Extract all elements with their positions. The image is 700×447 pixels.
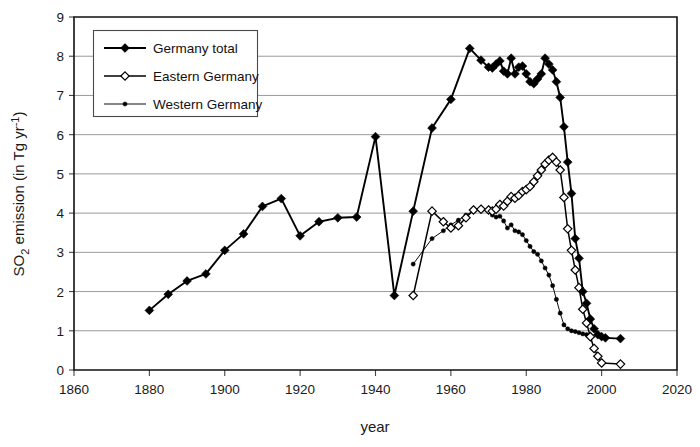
data-point-western-germany [498,214,502,218]
y-tick-label-4: 4 [56,206,64,221]
data-point-western-germany [569,329,573,333]
x-tick-label-1880: 1880 [134,382,164,397]
data-point-western-germany [505,226,509,230]
data-point-western-germany [532,249,536,253]
data-point-western-germany [524,238,528,242]
x-tick-label-1980: 1980 [511,382,541,397]
chart-figure: 0123456789 18601880190019201940196019802… [0,0,700,447]
y-tick-label-6: 6 [56,128,64,143]
y-tick-label-5: 5 [56,167,64,182]
data-point-western-germany [411,262,415,266]
legend-label-eastern-germany: Eastern Germany [153,69,259,84]
x-tick-label-1920: 1920 [285,382,315,397]
x-tick-label-1960: 1960 [436,382,466,397]
data-point-western-germany [539,259,543,263]
x-tick-label-1940: 1940 [360,382,390,397]
x-tick-label-2000: 2000 [587,382,617,397]
data-point-western-germany [528,244,532,248]
y-tick-label-9: 9 [56,10,64,25]
data-point-western-germany [551,284,555,288]
data-point-western-germany [547,273,551,277]
y-axis-title-mid: emission (in Tg yr [10,126,27,248]
data-point-western-germany [520,233,524,237]
y-axis-title-superscript: -1 [9,117,21,127]
y-tick-label-2: 2 [56,285,64,300]
data-point-western-germany [430,237,434,241]
x-axis-tick-labels: 186018801900192019401960198020002020 [59,382,692,397]
y-tick-label-8: 8 [56,49,64,64]
y-axis-title-pre: SO [10,255,27,277]
data-point-western-germany [517,230,521,234]
legend-label-western-germany: Western Germany [153,97,263,112]
x-axis-title: year [360,418,389,435]
x-tick-label-2020: 2020 [662,382,692,397]
y-tick-label-1: 1 [56,324,64,339]
data-point-western-germany [562,323,566,327]
data-point-western-germany [441,229,445,233]
data-point-western-germany [535,252,539,256]
data-point-western-germany [502,219,506,223]
data-point-western-germany [509,223,513,227]
chart-legend: Germany totalEastern GermanyWestern Germ… [94,31,263,117]
y-tick-label-0: 0 [56,363,64,378]
so2-emission-line-chart: 0123456789 18601880190019201940196019802… [0,0,700,447]
y-tick-label-3: 3 [56,245,64,260]
data-point-western-germany [566,327,570,331]
legend-marker-western-germany [123,102,127,106]
x-tick-label-1860: 1860 [59,382,89,397]
legend-label-germany-total: Germany total [153,41,238,56]
y-tick-label-7: 7 [56,88,64,103]
y-axis-title-post: ) [10,112,27,117]
x-tick-label-1900: 1900 [210,382,240,397]
data-point-western-germany [581,332,585,336]
data-point-western-germany [494,215,498,219]
data-point-western-germany [543,266,547,270]
data-point-western-germany [554,297,558,301]
data-point-western-germany [558,311,562,315]
